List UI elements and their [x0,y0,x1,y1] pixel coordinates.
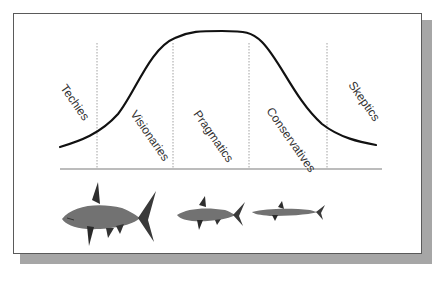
segment-label-conservatives: Conservatives [264,105,319,175]
segment-label-visionaries: Visionaries [128,108,173,164]
large-shark-icon [62,182,156,246]
adoption-curve-diagram: Techies Visionaries Pragmatics Conservat… [0,0,444,282]
small-shark-icon [252,201,325,221]
medium-shark-icon [177,196,245,230]
segment-label-skeptics: Skeptics [346,79,383,124]
segment-label-techies: Techies [58,82,93,123]
segment-label-pragmatics: Pragmatics [191,108,237,165]
